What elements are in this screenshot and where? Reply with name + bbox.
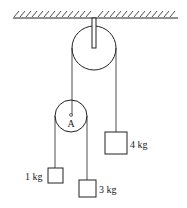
pulley-label: A	[67, 118, 75, 129]
movable-pulley-a: A	[55, 100, 87, 132]
mass-3kg: 3 kg	[79, 180, 117, 197]
ceiling	[13, 11, 178, 18]
pulley-hanger	[92, 18, 96, 48]
mass-4kg: 4 kg	[105, 132, 148, 154]
axle-icon	[70, 114, 73, 117]
pulley-diagram: A 1 kg 3 kg 4 kg	[0, 0, 187, 208]
mass-label: 1 kg	[25, 171, 43, 182]
fixed-pulley	[72, 18, 116, 70]
mass-label: 3 kg	[99, 184, 117, 195]
mass-1kg: 1 kg	[25, 168, 63, 183]
mass-label: 4 kg	[130, 139, 148, 150]
